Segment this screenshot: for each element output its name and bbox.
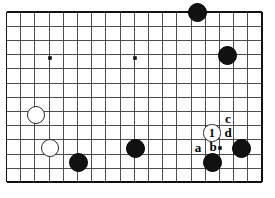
point-label-a: a [191, 141, 205, 154]
board-grid [0, 0, 275, 198]
white-stone-upper-left [27, 106, 45, 124]
black-stone-right-edge [232, 139, 251, 158]
black-stone-top [188, 3, 207, 22]
point-label-b: b [206, 140, 220, 153]
go-board-diagram: 1 abcd [0, 0, 275, 198]
point-label-c: c [221, 112, 235, 125]
black-stone-center-bottom [126, 139, 145, 158]
white-stone-move-1-number: 1 [204, 128, 219, 140]
black-stone-below-b [203, 153, 222, 172]
point-label-d: d [221, 126, 235, 139]
white-stone-lower-left [41, 139, 59, 157]
star-point-hoshi-left [48, 56, 52, 60]
black-stone-lower-left [69, 153, 88, 172]
star-point-hoshi-center [133, 56, 137, 60]
black-stone-upper-right [218, 46, 237, 65]
